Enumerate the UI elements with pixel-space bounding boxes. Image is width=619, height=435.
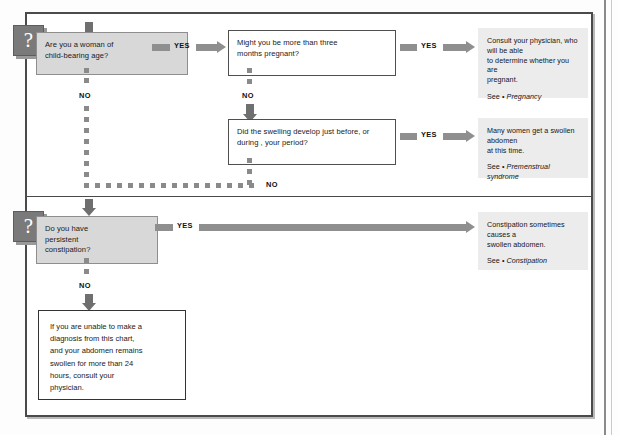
yes-stub-q2 [400,44,417,51]
dashed-path-no-horizontal [84,183,264,188]
page-outer-edge [611,0,612,435]
adv-line5: hours, consult your [50,370,175,382]
yes-stub-q1 [152,44,170,51]
answer-2-text: Many women get a swollen abdomen at this… [478,118,588,155]
adv-line3: and your abdomen remains [50,345,175,357]
question-box-4-text: Do you have persistent constipation? [37,217,157,256]
answer-2-see[interactable]: See • Premenstrual syndrome [478,155,588,182]
arrow-shaft [443,44,467,51]
adv-line2: diagnosis from this chart, [50,333,175,345]
arrow-shaft [196,44,218,51]
arrow-q3-to-answer2 [443,133,477,140]
answer-box-1: Consult your physician, who will be able… [478,28,588,98]
a2-line1: Many women get a swollen abdomen [487,126,579,146]
q4-line3: constipation? [45,245,149,256]
question-box-2[interactable]: Might you be more than three months preg… [228,30,396,76]
q1-line2: child-bearing age? [45,51,179,62]
no-label-q1: NO [79,91,91,100]
question-box-2-text: Might you be more than three months preg… [229,31,395,59]
a1-line2: to determine whether you are [487,56,579,76]
answer-3-text: Constipation sometimes causes a swollen … [478,212,588,249]
answer-1-see[interactable]: See • Pregnancy [478,85,588,102]
arrow-head [82,208,96,216]
answer-3-see[interactable]: See • Constipation [478,249,588,266]
adv-line1: If you are unable to make a [50,321,175,333]
a3-line1: Constipation sometimes causes a [487,220,579,240]
q2-line1: Might you be more than three [237,38,387,49]
yes-label-q3: YES [421,130,437,139]
answer-1-text: Consult your physician, who will be able… [478,28,588,85]
section-divider [27,196,591,197]
advice-box: If you are unable to make a diagnosis fr… [38,310,186,400]
page-canvas: ? Are you a woman of child-bearing age? … [0,0,619,435]
yes-stub-q4 [155,224,173,231]
q4-line2: persistent [45,235,149,246]
see-topic-constipation[interactable]: Constipation [507,256,547,265]
yes-label-q4: YES [177,221,193,230]
answer-box-2: Many women get a swollen abdomen at this… [478,118,588,178]
q3-line1: Did the swelling develop just before, or [237,127,387,138]
a3-line2: swollen abdomen. [487,240,579,250]
arrow-shaft [199,224,467,231]
arrow-q1-to-q2 [196,44,228,51]
yes-stub-q3 [400,133,417,140]
arrow-head [466,221,475,233]
no-label-q2: NO [242,91,254,100]
see-prefix: See • [487,256,507,265]
arrow-shaft [443,133,467,140]
see-prefix: See • [487,92,507,101]
yes-label-q1: YES [174,41,190,50]
arrow-q4-to-answer3 [199,224,477,231]
q2-line2: months pregnant? [237,49,387,60]
see-prefix: See • [487,162,507,171]
arrow-head [466,41,475,53]
yes-label-q2: YES [421,41,437,50]
page-right-edge [604,0,606,435]
a2-line2: at this time. [487,146,579,156]
arrow-head [217,41,226,53]
question-box-1[interactable]: Are you a woman of child-bearing age? [36,32,188,75]
q4-line1: Do you have [45,224,149,235]
q3-line2: during , your period? [237,138,387,149]
answer-box-3: Constipation sometimes causes a swollen … [478,212,588,270]
see-topic-pregnancy[interactable]: Pregnancy [507,92,542,101]
advice-text: If you are unable to make a diagnosis fr… [39,311,185,394]
a1-line1: Consult your physician, who will be able [487,36,579,56]
no-label-q4: NO [79,281,91,290]
question-box-4[interactable]: Do you have persistent constipation? [36,216,158,264]
adv-line6: physician. [50,382,175,394]
adv-line4: swollen for more than 24 [50,358,175,370]
no-label-merge: NO [266,180,278,189]
question-box-3[interactable]: Did the swelling develop just before, or… [228,119,396,165]
arrow-q2-to-answer1 [443,44,477,51]
arrow-head [466,130,475,142]
a1-line3: pregnant. [487,75,579,85]
question-box-3-text: Did the swelling develop just before, or… [229,120,395,148]
